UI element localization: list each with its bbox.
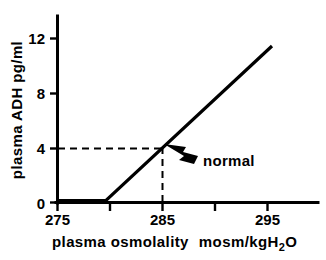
x-tick-label-285: 285 — [150, 211, 175, 228]
x-axis-units-pre: mosm/kgH — [199, 233, 279, 250]
y-tick-label-8: 8 — [37, 85, 45, 102]
y-tick-label-0: 0 — [37, 195, 45, 212]
y-tick-label-4: 4 — [37, 140, 46, 157]
annotation-label-normal: normal — [203, 152, 255, 169]
y-tick-label-12: 12 — [28, 30, 45, 47]
x-axis-units-post: O — [285, 233, 297, 250]
plasma-adh-line-chart: 12 8 4 0 275 285 295 normal plasma ADH p… — [0, 0, 326, 260]
x-tick-label-295: 295 — [255, 211, 280, 228]
y-axis-title: plasma ADH pg/ml — [8, 41, 25, 179]
chart-figure: 12 8 4 0 275 285 295 normal plasma ADH p… — [0, 0, 326, 260]
x-axis-title-main: plasma osmolality — [52, 233, 189, 250]
x-tick-label-275: 275 — [45, 211, 70, 228]
